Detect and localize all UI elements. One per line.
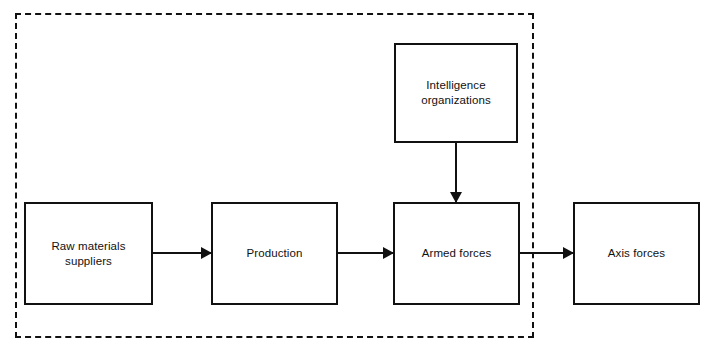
node-intelligence-organizations[interactable]: Intelligence organizations	[394, 43, 518, 143]
node-label-raw-materials-suppliers: Raw materials suppliers	[47, 239, 129, 268]
node-label-intelligence-organizations: Intelligence organizations	[417, 78, 495, 107]
node-label-armed-forces: Armed forces	[418, 246, 496, 261]
diagram-canvas: Raw materials suppliers Production Armed…	[0, 0, 711, 354]
node-raw-materials-suppliers[interactable]: Raw materials suppliers	[24, 202, 153, 305]
arrow-raw-materials-to-production	[153, 252, 211, 254]
node-production[interactable]: Production	[211, 202, 338, 305]
arrowhead-right-icon	[201, 247, 212, 259]
arrowhead-right-icon	[383, 247, 394, 259]
arrow-intelligence-to-armed-forces	[455, 143, 457, 202]
arrowhead-down-icon	[450, 192, 462, 203]
arrow-production-to-armed-forces	[338, 252, 393, 254]
arrow-armed-forces-to-axis-forces	[520, 252, 573, 254]
node-label-production: Production	[243, 246, 307, 261]
node-label-axis-forces: Axis forces	[604, 246, 669, 261]
arrowhead-right-icon	[563, 247, 574, 259]
node-axis-forces[interactable]: Axis forces	[573, 202, 700, 305]
node-armed-forces[interactable]: Armed forces	[393, 202, 520, 305]
